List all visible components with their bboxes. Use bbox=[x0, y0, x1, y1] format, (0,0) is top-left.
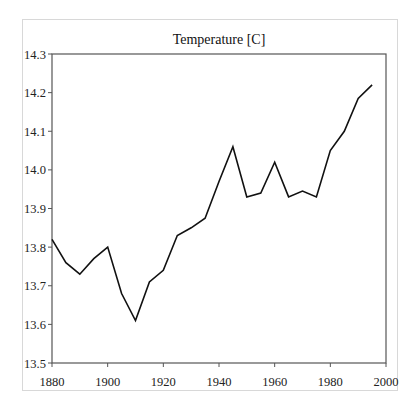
y-axis: 13.513.613.713.813.914.014.114.214.3 bbox=[24, 48, 52, 371]
temperature-line bbox=[52, 85, 372, 321]
x-axis: 1880190019201940196019802000 bbox=[40, 363, 399, 389]
x-tick-label: 1920 bbox=[151, 375, 176, 389]
y-tick-label: 14.0 bbox=[24, 163, 46, 177]
x-tick-label: 1880 bbox=[40, 375, 65, 389]
y-tick-label: 13.9 bbox=[24, 202, 46, 216]
y-tick-label: 13.7 bbox=[24, 279, 46, 293]
y-tick-label: 13.6 bbox=[24, 318, 46, 332]
y-tick-label: 13.8 bbox=[24, 241, 46, 255]
x-tick-label: 1980 bbox=[318, 375, 343, 389]
x-tick-label: 2000 bbox=[374, 375, 399, 389]
y-tick-label: 14.1 bbox=[24, 125, 46, 139]
y-tick-label: 14.2 bbox=[24, 86, 46, 100]
chart-title: Temperature [C] bbox=[173, 32, 266, 47]
x-tick-label: 1900 bbox=[95, 375, 120, 389]
x-tick-label: 1940 bbox=[207, 375, 232, 389]
plot-area bbox=[52, 54, 386, 363]
y-tick-label: 14.3 bbox=[24, 48, 46, 62]
y-tick-label: 13.5 bbox=[24, 357, 46, 371]
x-tick-label: 1960 bbox=[262, 375, 287, 389]
line-chart: Temperature [C] 13.513.613.713.813.914.0… bbox=[0, 0, 420, 412]
